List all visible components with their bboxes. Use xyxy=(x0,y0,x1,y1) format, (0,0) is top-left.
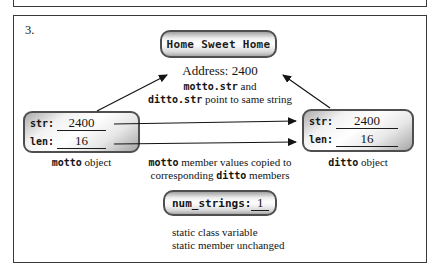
step-number: 3. xyxy=(25,23,34,38)
pointer-note-line2: ditto.str point to same string xyxy=(110,93,330,105)
code-ditto-str: ditto.str xyxy=(148,94,202,105)
ditto-caption-code: ditto xyxy=(328,157,358,168)
copy-note-line2: corresponding ditto members xyxy=(118,169,322,182)
motto-object-box: str: 2400 len: 16 xyxy=(23,111,140,153)
ditto-str-label: str: xyxy=(304,114,333,130)
copy-note-line2-text-a: corresponding xyxy=(151,169,217,181)
motto-str-value: 2400 xyxy=(57,115,106,131)
motto-caption-text: object xyxy=(82,156,112,168)
ditto-len-label: len: xyxy=(304,132,333,148)
static-note-line2: static member unchanged xyxy=(172,239,284,252)
pointer-note-line1: motto.str and xyxy=(110,80,330,92)
ditto-len-row: len: 16 xyxy=(304,131,412,147)
motto-len-label: len: xyxy=(25,134,54,150)
static-note: static class variable static member unch… xyxy=(172,226,284,251)
pointer-note-line2-text: point to same string xyxy=(202,93,292,105)
static-variable-box: num_strings: 1 xyxy=(163,190,277,216)
address-label: Address: 2400 xyxy=(120,63,320,79)
ditto-str-row: str: 2400 xyxy=(304,113,412,129)
ditto-len-value: 16 xyxy=(336,131,398,147)
motto-caption-code: motto xyxy=(52,157,82,168)
ditto-caption-text: object xyxy=(358,156,388,168)
copy-note-code-motto: motto xyxy=(148,157,178,168)
string-literal-text: Home Sweet Home xyxy=(167,38,271,51)
motto-len-value: 16 xyxy=(57,133,106,149)
previous-figure-frame-edge xyxy=(13,0,427,7)
num-strings-label: num_strings: xyxy=(165,196,251,212)
copy-note-line1-text: member values copied to xyxy=(179,156,292,168)
static-note-line1: static class variable xyxy=(172,226,284,239)
num-strings-value: 1 xyxy=(251,195,269,211)
code-motto-str: motto.str xyxy=(184,81,238,92)
copy-note-line2-text-b: members xyxy=(246,169,289,181)
motto-len-row: len: 16 xyxy=(25,133,138,149)
motto-str-row: str: 2400 xyxy=(25,115,138,131)
motto-str-label: str: xyxy=(25,116,54,132)
copy-note: motto member values copied to correspond… xyxy=(118,156,322,182)
ditto-str-value: 2400 xyxy=(336,113,398,129)
ditto-object-box: str: 2400 len: 16 xyxy=(302,109,414,152)
string-literal-box: Home Sweet Home xyxy=(160,30,277,58)
copy-note-line1: motto member values copied to xyxy=(118,156,322,169)
copy-note-code-ditto: ditto xyxy=(216,170,246,181)
pointer-note-line1-text: and xyxy=(238,80,257,92)
figure-canvas: 3. Home Sweet Home Address: 2400 motto.s… xyxy=(0,0,439,279)
